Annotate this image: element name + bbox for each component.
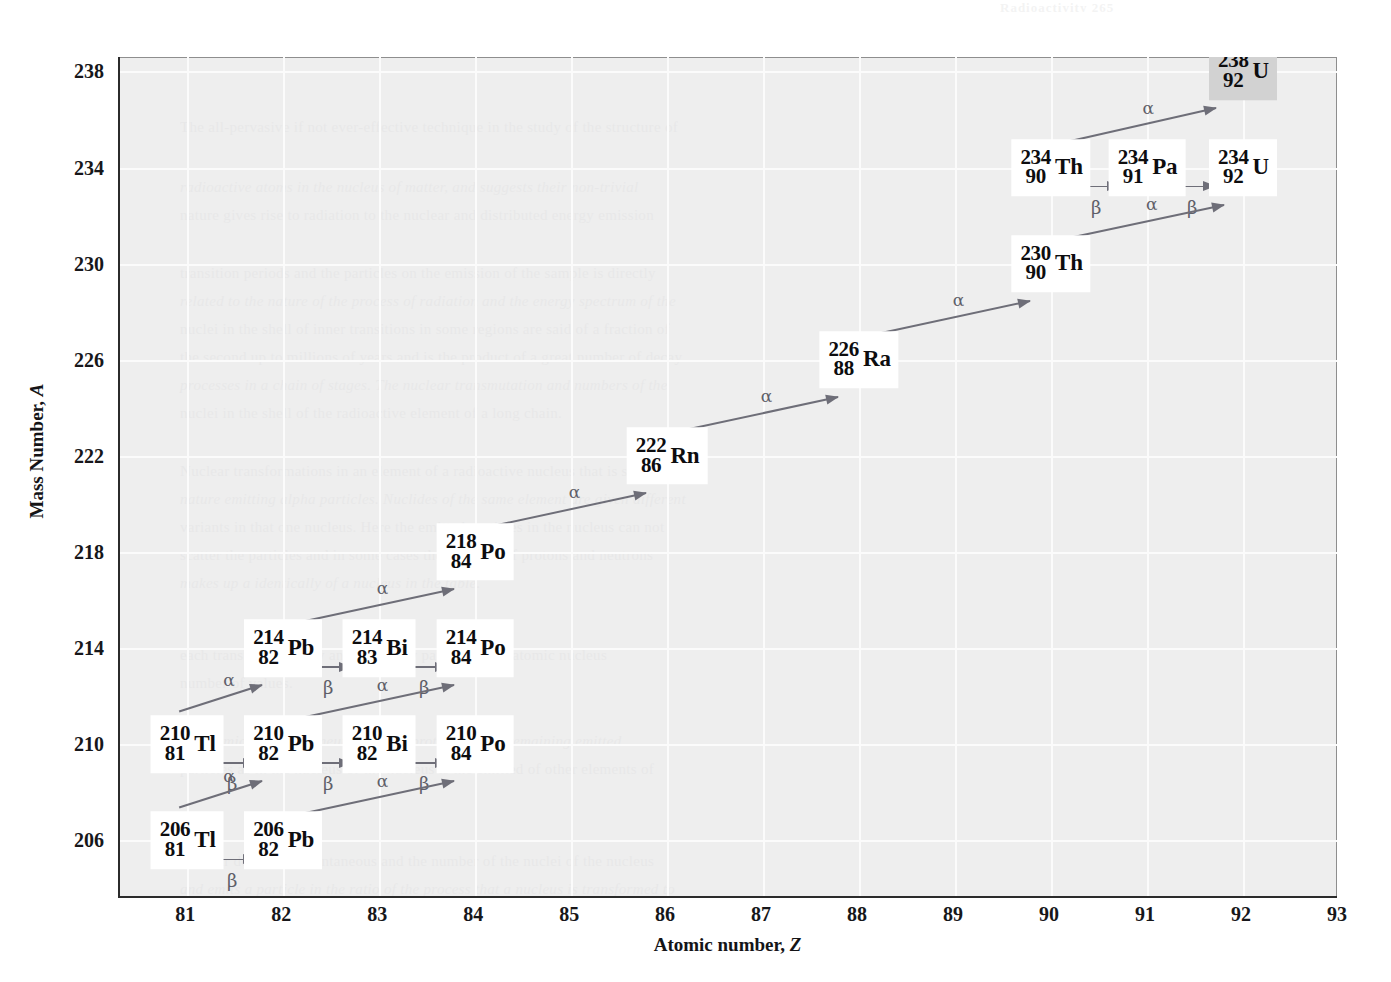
element-symbol: U [1253,155,1269,181]
bleedthrough-line: transition periods and the particles on … [180,258,656,288]
plot-inner: The all-pervasive if not ever-effective … [120,57,1337,896]
bleedthrough-line: and emits a particle in the ratio of the… [180,874,675,896]
gridline-vertical-87 [763,57,765,896]
x-tick-83: 83 [354,903,400,926]
arrowhead-icon [1017,296,1032,309]
nuclide-numbers: 20682 [253,821,284,860]
beta-label: β [1187,197,1197,218]
x-axis-title: Atomic number, Z [118,934,1337,956]
nuclide-numbers: 22286 [636,436,667,475]
y-axis-title-text: Mass Number, [26,396,47,518]
nuclide-box-Bi214: 21483Bi [343,619,416,676]
page-header-bleed: Radioactivity 265 [1000,0,1330,12]
nuclide-box-Ra226: 22688Ra [819,331,898,388]
gridline-horizontal-226 [120,360,1337,362]
element-symbol: Pa [1152,155,1177,181]
nuclide-box-U238: 23892U [1209,57,1277,100]
arrowhead-icon [441,777,456,790]
beta-label: β [323,773,333,794]
alpha-label: α [1146,194,1157,214]
atomic-number: 84 [451,744,471,764]
gridline-vertical-88 [859,57,861,896]
atomic-number: 83 [357,648,377,668]
y-axis-title: Mass Number, A [26,351,48,551]
x-tick-82: 82 [258,903,304,926]
nuclide-numbers: 21884 [446,532,477,571]
nuclide-numbers: 23490 [1020,148,1051,187]
arrow-shaft [179,781,262,809]
atomic-number: 86 [641,456,661,476]
alpha-decay-arrow-Pb210-to-Tl206 [179,780,262,808]
bleedthrough-line: the second up to millions of years and i… [180,342,682,372]
nuclide-box-Tl206: 20681Tl [151,812,224,869]
plot-frame-top [120,57,1337,58]
nuclide-box-Pb206: 20682Pb [244,812,322,869]
atomic-number: 88 [834,360,854,380]
nuclide-numbers: 21082 [352,724,383,763]
nuclide-numbers: 21482 [253,628,284,667]
bleedthrough-line: related to the nature of the process of … [180,286,676,316]
x-tick-81: 81 [162,903,208,926]
element-symbol: Pb [288,635,314,661]
arrow-shaft [179,685,262,713]
x-axis-title-text: Atomic number, [654,934,790,955]
nuclide-numbers: 21081 [160,724,191,763]
alpha-decay-arrow-Pb214-to-Tl210 [179,684,262,712]
arrowhead-icon [825,392,840,405]
element-symbol: Pb [288,731,314,757]
y-tick-238: 238 [30,60,104,82]
plot-area: The all-pervasive if not ever-effective … [118,57,1337,898]
arrowhead-icon [249,681,264,694]
nuclide-box-Th230: 23090Th [1011,235,1090,292]
element-symbol: Po [480,539,505,565]
element-symbol: Tl [194,827,215,853]
alpha-label: α [1142,98,1153,118]
element-symbol: Bi [386,731,407,757]
plot-frame-right [1336,57,1337,896]
element-symbol: Th [1055,251,1083,277]
beta-label: β [323,677,333,698]
nuclide-numbers: 23491 [1118,148,1149,187]
element-symbol: Bi [386,635,407,661]
y-tick-206: 206 [30,829,104,851]
nuclide-box-Th234: 23490Th [1011,139,1090,196]
y-tick-214: 214 [30,637,104,659]
gridline-horizontal-222 [120,456,1337,458]
beta-label: β [227,870,237,891]
element-symbol: U [1253,58,1269,84]
atomic-number: 92 [1223,71,1243,91]
alpha-label: α [223,670,234,690]
alpha-label: α [761,386,772,406]
atomic-number: 81 [165,840,185,860]
alpha-label: α [223,766,234,786]
bleedthrough-line: radioactive atoms in the nucleus of matt… [180,172,638,202]
x-tick-91: 91 [1122,903,1168,926]
atomic-number: 92 [1223,168,1243,188]
atomic-number: 91 [1123,168,1143,188]
nuclide-box-Bi210: 21082Bi [343,715,416,772]
nuclide-numbers: 22688 [828,340,859,379]
alpha-label: α [377,578,388,598]
y-tick-234: 234 [30,157,104,179]
x-tick-87: 87 [738,903,784,926]
y-tick-230: 230 [30,253,104,275]
x-tick-86: 86 [642,903,688,926]
gridline-horizontal-238 [120,71,1337,73]
nuclide-box-Pa234: 23491Pa [1109,139,1186,196]
nuclide-numbers: 20681 [160,821,191,860]
atomic-number: 82 [357,744,377,764]
bleedthrough-line: makes up a identically of a nucleus in t… [180,568,480,598]
y-tick-210: 210 [30,733,104,755]
bleedthrough-line: Nuclear transformations in an element of… [180,456,666,486]
x-tick-92: 92 [1218,903,1264,926]
x-tick-93: 93 [1314,903,1360,926]
x-tick-84: 84 [450,903,496,926]
bleedthrough-line: nuclei in the shell of the radioactive e… [180,398,562,428]
nuclide-numbers: 21484 [446,628,477,667]
atomic-number: 90 [1025,264,1045,284]
nuclide-numbers: 23492 [1218,148,1249,187]
nuclide-box-Po214: 21484Po [437,619,514,676]
arrowhead-icon [1211,200,1226,212]
x-tick-88: 88 [834,903,880,926]
gridline-vertical-85 [571,57,573,896]
